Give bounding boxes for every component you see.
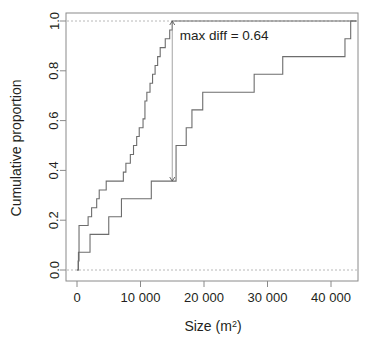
y-tick-label-0: 0.0 <box>47 261 62 279</box>
ecdf-chart: max diff = 0.64 010 00020 00030 00040 00… <box>0 0 373 343</box>
x-axis-title-close: ) <box>237 318 242 334</box>
x-axis-tick-labels: 010 00020 00030 00040 000 <box>73 290 351 305</box>
x-tick-label-1: 10 000 <box>121 290 161 305</box>
y-axis-ticks <box>60 21 66 270</box>
x-axis-title-base: Size (m <box>184 318 231 334</box>
x-tick-label-3: 30 000 <box>248 290 288 305</box>
x-tick-label-2: 20 000 <box>184 290 224 305</box>
max-diff-label: max diff = 0.64 <box>180 28 269 43</box>
x-axis-title: Size (m2) <box>184 318 241 334</box>
data-series <box>77 21 356 270</box>
x-axis-ticks <box>77 281 331 287</box>
x-tick-label-0: 0 <box>73 290 80 305</box>
gridlines <box>67 21 357 270</box>
y-tick-label-5: 1.0 <box>47 12 62 30</box>
y-tick-label-2: 0.4 <box>47 161 62 179</box>
y-axis-tick-labels: 0.00.20.40.60.81.0 <box>47 12 62 279</box>
y-tick-label-1: 0.2 <box>47 211 62 229</box>
chart-canvas: max diff = 0.64 010 00020 00030 00040 00… <box>0 0 373 343</box>
y-axis-title: Cumulative proportion <box>8 80 24 217</box>
plot-frame <box>66 13 358 281</box>
annotations: max diff = 0.64 <box>170 21 269 181</box>
plot-box <box>66 13 358 281</box>
ecdf-curve-right-curve <box>77 21 356 270</box>
x-tick-label-4: 40 000 <box>311 290 351 305</box>
y-tick-label-3: 0.6 <box>47 112 62 130</box>
ecdf-curve-left-curve <box>77 21 356 270</box>
y-tick-label-4: 0.8 <box>47 62 62 80</box>
